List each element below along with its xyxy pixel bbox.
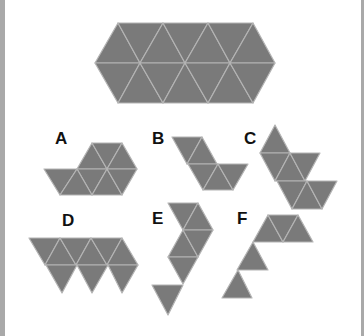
option-d-triangle <box>46 265 77 293</box>
option-b-shape[interactable] <box>172 137 248 190</box>
option-d-label[interactable]: D <box>62 212 74 229</box>
option-c-label[interactable]: C <box>244 130 256 147</box>
option-e-triangle <box>152 285 183 315</box>
option-a-shape[interactable] <box>44 143 137 195</box>
option-a-label[interactable]: A <box>55 130 67 147</box>
puzzle-canvas <box>0 0 364 336</box>
option-d-shape[interactable] <box>29 238 138 293</box>
option-f-label[interactable]: F <box>237 210 247 227</box>
option-c-triangle <box>260 125 290 153</box>
option-d-triangle <box>77 265 108 293</box>
puzzle-figure: A B C D E F <box>0 0 364 336</box>
option-b-label[interactable]: B <box>152 130 164 147</box>
option-d-triangle <box>108 265 138 293</box>
option-e-triangle <box>168 257 198 284</box>
target-shape <box>95 23 275 103</box>
option-f-shape[interactable] <box>222 215 313 298</box>
option-f-triangle <box>222 270 252 298</box>
option-f-triangle <box>237 242 268 270</box>
option-e-label[interactable]: E <box>152 210 163 227</box>
option-c-shape[interactable] <box>260 125 337 209</box>
